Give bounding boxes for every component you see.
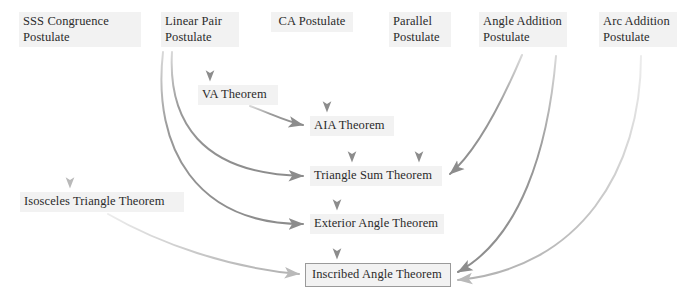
edge-isosceles-to-inscribed-angle	[108, 214, 299, 274]
flowchart-canvas: SSS Congruence PostulateLinear Pair Post…	[0, 0, 700, 308]
node-isosceles[interactable]: Isosceles Triangle Theorem	[20, 192, 184, 212]
edge-angle-addition-to-triangle-sum	[450, 55, 522, 174]
node-va[interactable]: VA Theorem	[198, 85, 278, 105]
node-aia[interactable]: AIA Theorem	[310, 116, 394, 136]
edge-arc-addition-to-inscribed-angle	[458, 56, 641, 280]
node-arc_addition[interactable]: Arc Addition Postulate	[599, 12, 677, 47]
node-parallel[interactable]: Parallel Postulate	[389, 12, 451, 47]
node-angle_addition[interactable]: Angle Addition Postulate	[479, 12, 567, 47]
edge-linear-pair-to-triangle-sum	[172, 52, 303, 176]
edge-va-to-aia	[250, 106, 303, 125]
node-sss[interactable]: SSS Congruence Postulate	[19, 12, 141, 47]
node-exterior_angle[interactable]: Exterior Angle Theorem	[310, 214, 444, 234]
node-inscribed_angle[interactable]: Inscribed Angle Theorem	[305, 263, 451, 287]
node-linear_pair[interactable]: Linear Pair Postulate	[161, 12, 239, 47]
node-triangle_sum[interactable]: Triangle Sum Theorem	[310, 166, 442, 186]
node-ca[interactable]: CA Postulate	[271, 12, 353, 32]
